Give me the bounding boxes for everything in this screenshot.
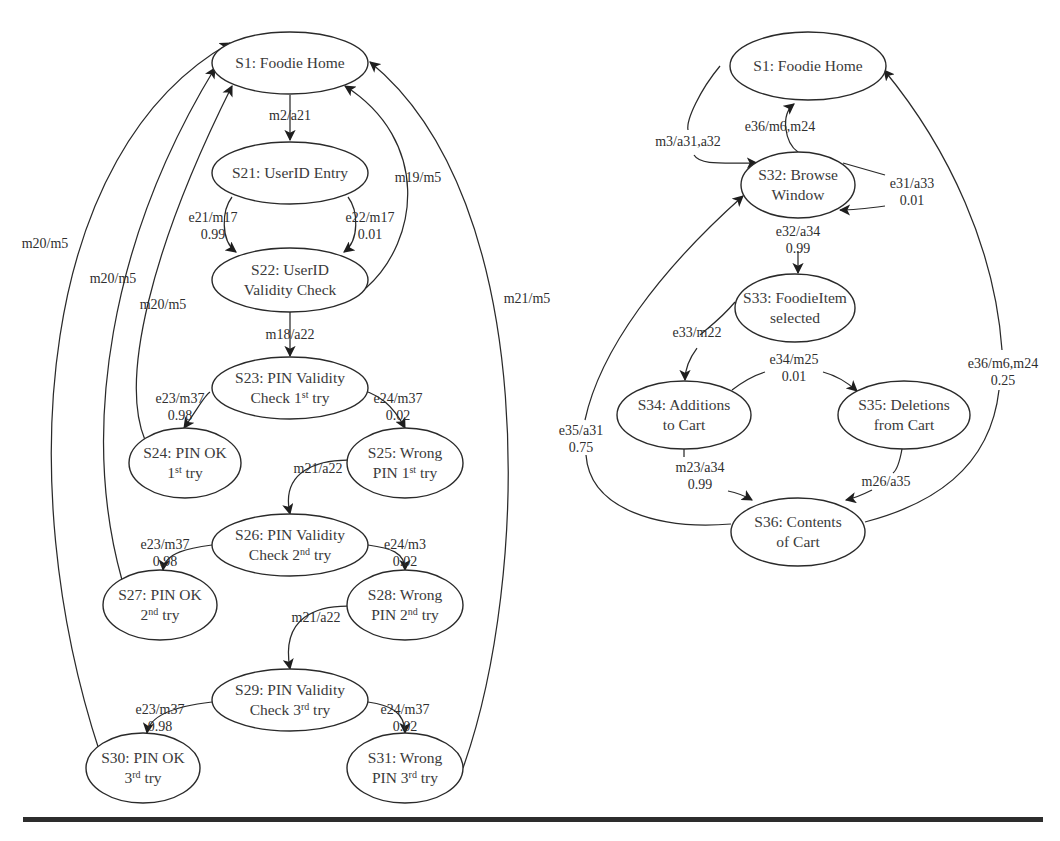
state-ellipse [129, 428, 241, 498]
transition-s29-to-s31: e24/m370.02 [368, 702, 430, 734]
transition-s27-to-s1: m20/m5 [90, 68, 215, 580]
state-label: PIN 3rd try [372, 769, 438, 787]
transition-s29-to-s30: e23/m370.98 [136, 702, 213, 734]
transition-label: e24/m37 [381, 702, 430, 717]
transition-label: m26/a35 [862, 474, 911, 489]
state-label: PIN 2nd try [371, 606, 439, 624]
transition-label: e31/a33 [890, 176, 934, 191]
transition-label: m20/m5 [22, 236, 69, 251]
transition-path [685, 348, 697, 380]
state-label: S34: Additions [638, 396, 731, 413]
transition-label: m20/m5 [140, 297, 187, 312]
transition-label: e35/a31 [559, 423, 603, 438]
state-label: S28: Wrong [368, 586, 443, 603]
state-label: S21: UserID Entry [232, 164, 348, 181]
transition-s22-to-s23: m18/a22 [266, 312, 315, 356]
transition-label: m21/a22 [294, 461, 343, 476]
state-node-s31: S31: WrongPIN 3rd try [347, 733, 463, 803]
transition-label: 0.01 [782, 369, 807, 384]
transition-path [823, 372, 857, 391]
transition-path [884, 70, 1002, 350]
state-ellipse [731, 498, 865, 566]
state-ellipse [212, 248, 368, 312]
state-ellipse [617, 381, 751, 449]
transition-label: m21/m5 [504, 291, 551, 306]
state-label: S36: Contents [754, 513, 841, 530]
transition-path [688, 66, 720, 130]
right-nodes: S1: Foodie HomeS32: BrowseWindowS33: Foo… [617, 32, 970, 566]
transition-s33-to-s34: e33/m22 [673, 302, 736, 340]
state-label: S25: Wrong [368, 444, 443, 461]
transition-label: e23/m37 [141, 537, 190, 552]
state-label: S1: Foodie Home [235, 54, 344, 71]
transition-s35-to-s36: m26/a35 [862, 449, 911, 489]
state-ellipse [735, 274, 855, 342]
state-node-s28: S28: WrongPIN 2nd try [347, 570, 463, 640]
state-label: Check 3rd try [250, 701, 331, 719]
transition-s23-to-s24: e23/m370.98 [156, 391, 211, 428]
state-node-s1: S1: Foodie Home [730, 32, 886, 100]
transition-s28-to-s29: m21/a22 [288, 606, 347, 669]
transition-label: 0.01 [900, 193, 925, 208]
state-ellipse [838, 381, 970, 449]
state-ellipse [347, 733, 463, 803]
state-label: S24: PIN OK [143, 444, 227, 461]
state-node-s24: S24: PIN OK1st try [129, 428, 241, 498]
transition-label: m20/m5 [90, 271, 137, 286]
state-label: 3rd try [124, 769, 161, 787]
state-label: Check 2nd try [249, 546, 332, 564]
state-ellipse [86, 733, 200, 803]
state-diagram-svg: m2/a21e21/m170.99e22/m170.01m19/m5m18/a2… [0, 0, 1060, 841]
transition-s34-to-s36 [728, 491, 752, 500]
transition-label: 0.99 [688, 477, 713, 492]
transition-label: 0.75 [569, 440, 594, 455]
transition-path [694, 155, 757, 163]
transition-label: 0.99 [201, 227, 226, 242]
transition-s33-to-s34 [685, 348, 697, 380]
state-label: S27: PIN OK [118, 586, 202, 603]
transition-s21-to-s22: e21/m170.99 [189, 197, 238, 252]
state-label: S30: PIN OK [101, 749, 185, 766]
transition-s36-to-s1 [884, 70, 1002, 350]
transition-label: 0.02 [393, 554, 418, 569]
state-label: of Cart [776, 533, 820, 550]
state-label: 2nd try [141, 606, 180, 624]
transition-s34-to-s35 [823, 372, 857, 391]
transition-label: e36/m6,m24 [968, 356, 1038, 371]
state-label: S1: Foodie Home [753, 57, 862, 74]
state-label: 1st try [167, 464, 203, 482]
transition-label: e32/a34 [776, 224, 820, 239]
transition-s23-to-s25: e24/m370.02 [368, 391, 423, 428]
state-node-s1: S1: Foodie Home [212, 32, 368, 94]
login-pin-state-diagram: m2/a21e21/m170.99e22/m170.01m19/m5m18/a2… [22, 32, 551, 803]
transition-path [104, 68, 215, 580]
transition-path [732, 372, 765, 390]
transition-label: m3/a31,a32 [655, 134, 721, 149]
transition-s26-to-s28: e24/m30.02 [368, 537, 426, 570]
transition-label: e24/m37 [374, 391, 423, 406]
state-diagram-canvas: m2/a21e21/m170.99e22/m170.01m19/m5m18/a2… [0, 0, 1060, 841]
state-ellipse [212, 669, 368, 731]
state-label: S22: UserID [251, 261, 329, 278]
state-ellipse [741, 152, 855, 218]
state-node-s34: S34: Additionsto Cart [617, 381, 751, 449]
state-node-s36: S36: Contentsof Cart [731, 498, 865, 566]
transition-s35-to-s36 [846, 490, 872, 500]
transition-label: e36/m6,m24 [745, 119, 815, 134]
transition-s32-to-s33: e32/a340.99 [776, 224, 820, 273]
state-ellipse [103, 570, 217, 640]
state-node-s33: S33: FoodieItemselected [735, 274, 855, 342]
transition-label: e24/m3 [384, 537, 426, 552]
state-label: S32: Browse [758, 166, 838, 183]
transition-label: e22/m17 [346, 210, 395, 225]
transition-path [728, 491, 752, 500]
transition-path [846, 490, 872, 500]
transition-label: m18/a22 [266, 327, 315, 342]
transition-s34-to-s36: m23/a340.99 [676, 449, 725, 492]
state-ellipse [347, 428, 463, 498]
state-node-s32: S32: BrowseWindow [741, 152, 855, 218]
state-node-s21: S21: UserID Entry [212, 142, 368, 204]
state-node-s35: S35: Deletionsfrom Cart [838, 381, 970, 449]
state-label: selected [770, 309, 820, 326]
state-ellipse [212, 357, 368, 419]
